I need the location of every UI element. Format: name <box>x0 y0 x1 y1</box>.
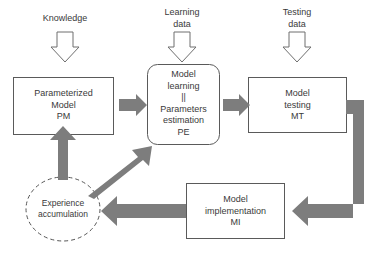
node-shape-pe <box>148 65 220 145</box>
node-label-experience: Experience accumulation <box>26 198 100 220</box>
down-outline-arrow-icon-knowledge <box>51 32 79 62</box>
diagram-canvas: Knowledge Learning data Testing data Par… <box>0 0 378 260</box>
node-shape-mi <box>187 184 285 239</box>
input-label-testing-data: Testing data <box>261 7 333 30</box>
input-label-knowledge: Knowledge <box>27 13 103 25</box>
block-arrow-pm-to-pe <box>119 94 147 116</box>
node-shape-pm <box>14 78 114 135</box>
down-outline-arrow-icon-testing-data <box>283 32 311 62</box>
diagram-graphics <box>0 0 378 260</box>
block-arrow-experience-to-pe <box>88 146 152 199</box>
input-label-learning-data: Learning data <box>146 7 218 30</box>
down-outline-arrow-icon-learning-data <box>168 32 196 62</box>
block-arrow-pe-to-mt <box>223 94 250 116</box>
block-arrow-mi-to-experience <box>101 196 186 226</box>
node-shape-mt <box>249 78 347 133</box>
